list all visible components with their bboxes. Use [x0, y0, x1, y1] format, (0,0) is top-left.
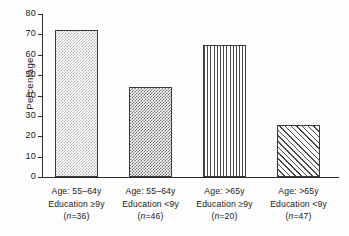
- category-line-sample-size: (n=47): [253, 210, 345, 223]
- y-axis-tick-label: 80: [10, 8, 36, 18]
- y-axis-tick-label: 50: [10, 69, 36, 79]
- bar-1: [55, 30, 98, 177]
- y-axis-tick: [38, 136, 42, 137]
- bar-chart-figure: Percentage 01020304050607080Age: 55–64yE…: [0, 0, 349, 236]
- y-axis-tick: [38, 14, 42, 15]
- y-axis-tick-label: 70: [10, 28, 36, 38]
- y-axis-tick: [38, 34, 42, 35]
- y-axis-tick: [38, 116, 42, 117]
- y-axis-tick-label: 20: [10, 130, 36, 140]
- category-line-education: Education <9y: [253, 198, 345, 211]
- y-axis-tick: [38, 177, 42, 178]
- y-axis-tick: [38, 55, 42, 56]
- y-axis-tick: [38, 75, 42, 76]
- x-axis-category-label-4: Age: >65yEducation <9y(n=47): [253, 185, 345, 223]
- y-axis-title: Percentage: [24, 29, 35, 139]
- bar-2: [129, 87, 172, 177]
- x-axis-line: [42, 177, 339, 178]
- y-axis-tick: [38, 157, 42, 158]
- y-axis-tick-label: 60: [10, 49, 36, 59]
- bar-3: [203, 45, 246, 177]
- y-axis-tick: [38, 96, 42, 97]
- y-axis-line: [42, 14, 43, 178]
- y-axis-tick-label: 30: [10, 110, 36, 120]
- bar-4: [277, 125, 320, 177]
- y-axis-tick-label: 40: [10, 90, 36, 100]
- plot-area: [42, 14, 339, 178]
- category-line-age: Age: >65y: [253, 185, 345, 198]
- y-axis-tick-label: 0: [10, 171, 36, 181]
- y-axis-tick-label: 10: [10, 151, 36, 161]
